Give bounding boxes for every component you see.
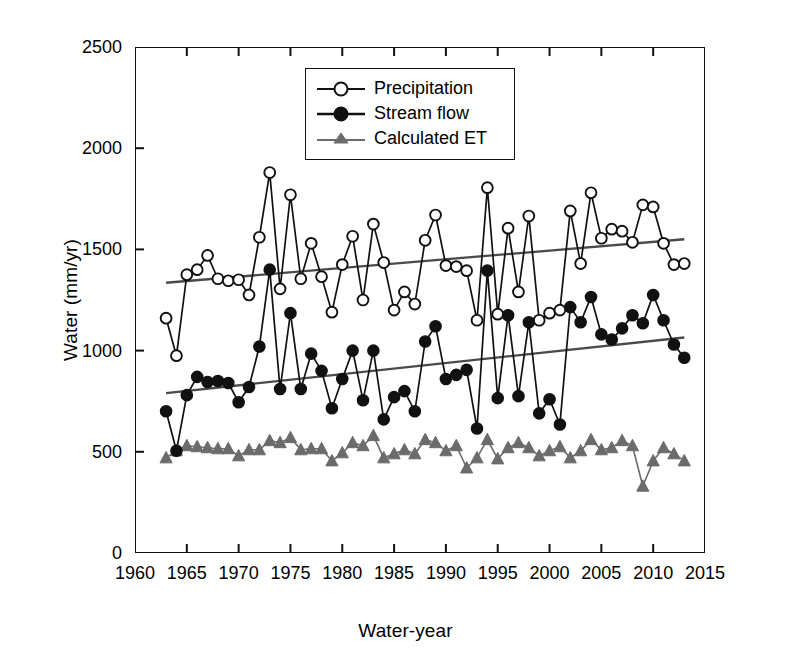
data-point — [585, 433, 597, 444]
x-tick-label: 1960 — [115, 563, 155, 584]
x-tick-label: 1965 — [167, 563, 207, 584]
data-point — [389, 305, 400, 316]
data-point — [171, 445, 182, 456]
data-point — [264, 264, 275, 275]
data-point — [450, 439, 462, 450]
data-point — [658, 238, 669, 249]
data-point — [295, 383, 306, 394]
data-point — [254, 232, 265, 243]
data-point — [534, 315, 545, 326]
series-stream-flow — [160, 264, 689, 456]
data-point — [284, 431, 296, 442]
data-point — [285, 189, 296, 200]
data-point — [575, 258, 586, 269]
open-circle-icon — [315, 79, 367, 99]
data-point — [523, 211, 534, 222]
data-point — [430, 210, 441, 221]
data-point — [523, 317, 534, 328]
data-point — [565, 206, 576, 217]
data-point — [502, 310, 513, 321]
data-point — [223, 275, 234, 286]
data-point — [306, 348, 317, 359]
legend-label-stream-flow: Stream flow — [374, 103, 469, 124]
data-point — [668, 339, 679, 350]
data-point — [378, 257, 389, 268]
data-point — [358, 295, 369, 306]
data-point — [378, 451, 390, 462]
legend-item-calculated-et: Calculated ET — [315, 126, 505, 151]
data-point — [637, 480, 649, 491]
data-point — [213, 273, 224, 284]
data-point — [275, 283, 286, 294]
data-point — [440, 373, 451, 384]
data-point — [606, 334, 617, 345]
data-point — [430, 321, 441, 332]
data-point — [543, 444, 555, 455]
data-point — [544, 394, 555, 405]
data-point — [160, 406, 171, 417]
data-point — [181, 269, 192, 280]
data-point — [347, 345, 358, 356]
filled-triangle-icon — [315, 129, 367, 149]
y-tick-label: 1000 — [82, 340, 122, 361]
data-point — [367, 429, 379, 440]
y-tick-label: 500 — [92, 441, 122, 462]
data-point — [606, 224, 617, 235]
data-point — [295, 273, 306, 284]
x-tick-label: 1975 — [270, 563, 310, 584]
data-point — [616, 434, 628, 445]
data-point — [212, 375, 223, 386]
data-point — [648, 201, 659, 212]
data-point — [606, 441, 618, 452]
data-point — [637, 199, 648, 210]
data-point — [181, 390, 192, 401]
y-tick-label: 2500 — [82, 37, 122, 58]
data-point — [451, 261, 462, 272]
data-point — [337, 373, 348, 384]
data-point — [596, 329, 607, 340]
data-point — [513, 287, 524, 298]
data-point — [368, 345, 379, 356]
data-point — [596, 233, 607, 244]
data-point — [471, 423, 482, 434]
data-point — [223, 377, 234, 388]
data-point — [657, 441, 669, 452]
data-point — [347, 231, 358, 242]
data-point — [399, 287, 410, 298]
data-point — [481, 433, 493, 444]
data-point — [264, 167, 275, 178]
legend-item-precipitation: Precipitation — [315, 76, 505, 101]
data-point — [368, 219, 379, 230]
y-tick-label: 1500 — [82, 239, 122, 260]
data-point — [420, 235, 431, 246]
data-point — [327, 307, 338, 318]
data-point — [461, 364, 472, 375]
data-point — [492, 309, 503, 320]
data-point — [544, 308, 555, 319]
data-point — [378, 414, 389, 425]
data-point — [409, 299, 420, 310]
data-point — [554, 440, 566, 451]
filled-circle-icon — [315, 104, 367, 124]
data-point — [337, 259, 348, 270]
data-point — [285, 308, 296, 319]
series-calculated-et — [160, 429, 690, 491]
data-point — [658, 315, 669, 326]
data-point — [409, 406, 420, 417]
data-point — [419, 433, 431, 444]
data-point — [565, 301, 576, 312]
data-point — [482, 182, 493, 193]
chart-figure: Water (mm/yr) 05001000150020002500 19601… — [0, 0, 811, 667]
data-point — [627, 310, 638, 321]
data-point — [441, 260, 452, 271]
x-axis-tick-labels: 1960196519701975198019851990199520002005… — [0, 563, 811, 593]
data-point — [513, 391, 524, 402]
data-point — [586, 187, 597, 198]
data-point — [181, 439, 193, 450]
data-point — [585, 291, 596, 302]
data-point — [575, 317, 586, 328]
data-point — [233, 274, 244, 285]
x-tick-label: 1970 — [219, 563, 259, 584]
data-point — [471, 451, 483, 462]
data-point — [451, 369, 462, 380]
